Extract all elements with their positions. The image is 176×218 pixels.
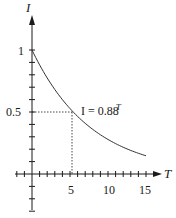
annotation-base: I = 0.88 (81, 104, 119, 118)
curve-annotation: I = 0.88T (81, 102, 122, 118)
x-axis-arrow-icon (153, 171, 162, 177)
decay-chart: I T 1 0.5 5 10 15 I = 0.88T (0, 0, 176, 218)
x-axis-label: T (164, 166, 172, 181)
x-tick-label-15: 15 (139, 183, 151, 197)
x-tick-label-10: 10 (103, 183, 115, 197)
annotation-exponent: T (116, 102, 122, 112)
x-tick-label-5: 5 (68, 183, 74, 197)
y-tick-label-1: 1 (18, 44, 24, 58)
y-axis-label: I (25, 0, 31, 15)
y-axis-arrow-icon (29, 15, 35, 25)
y-tick-label-0.5: 0.5 (6, 105, 21, 119)
decay-curve (32, 50, 146, 156)
